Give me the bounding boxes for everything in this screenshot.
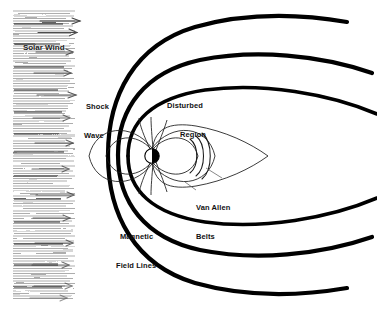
label-shock-wave-line2: Wave bbox=[84, 131, 109, 141]
label-shock-wave-line1: Shock bbox=[86, 102, 109, 112]
label-solar-wind-text: Solar Wind bbox=[23, 43, 65, 52]
label-magnetic-field-line1: Magnetic bbox=[120, 232, 156, 242]
label-disturbed-region-line1: Disturbed bbox=[167, 101, 206, 111]
label-shock-wave: Shock Wave bbox=[86, 83, 109, 159]
label-van-allen-belts: Van Allen Belts bbox=[196, 184, 230, 260]
label-van-allen-line2: Belts bbox=[196, 232, 230, 242]
label-disturbed-region-line2: Region bbox=[180, 130, 206, 140]
label-disturbed-region: Disturbed Region bbox=[167, 82, 206, 158]
earth-planet bbox=[145, 149, 159, 163]
label-solar-wind: Solar Wind bbox=[14, 33, 65, 62]
label-magnetic-field-lines: Magnetic Field Lines bbox=[120, 213, 156, 289]
label-van-allen-line1: Van Allen bbox=[196, 203, 230, 213]
magnetosphere-diagram: Solar Wind Shock Wave Disturbed Region V… bbox=[0, 0, 377, 311]
disturbed-region-boundary bbox=[128, 87, 377, 224]
label-magnetic-field-line2: Field Lines bbox=[116, 261, 156, 271]
